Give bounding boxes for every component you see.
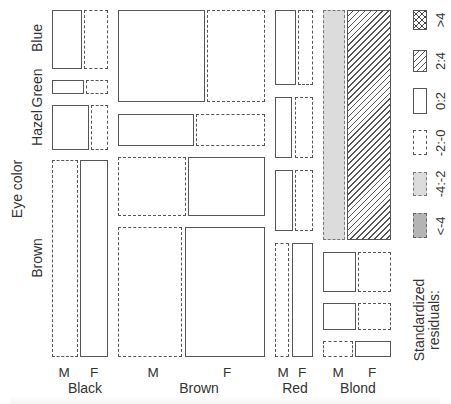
mosaic-tile-brown-brown-f — [185, 227, 265, 357]
mosaic-tile-red-hazel-f — [295, 170, 313, 231]
sex-label: F — [298, 365, 306, 380]
sex-label: M — [58, 365, 69, 380]
sex-label: F — [223, 365, 231, 380]
mosaic-tile-black-blue-f — [84, 10, 108, 69]
mosaic-tile-black-brown-f — [80, 160, 108, 357]
mosaic-tile-brown-green-f — [196, 114, 265, 146]
hair-label: Red — [282, 380, 308, 396]
mosaic-tile-brown-green-m — [118, 114, 194, 146]
y-level-label: Brown — [29, 238, 45, 278]
mosaic-tile-blond-brown-m — [323, 341, 353, 357]
mosaic-tile-blond-hazel-m — [323, 303, 356, 330]
legend-swatch — [413, 10, 427, 30]
mosaic-tile-black-hazel-f — [91, 105, 108, 150]
legend-label: -2:-0 — [433, 129, 448, 156]
sex-label: F — [368, 365, 376, 380]
legend-label: 0:2 — [433, 92, 448, 110]
legend-swatch — [413, 172, 427, 196]
mosaic-tile-blond-brown-f — [355, 341, 391, 357]
mosaic-tile-black-brown-m — [52, 160, 78, 357]
figure-caption-cutoff — [10, 396, 440, 404]
legend-label: >4 — [433, 13, 448, 28]
mosaic-tile-black-green-m — [52, 80, 84, 94]
mosaic-tile-red-green-f — [295, 97, 313, 158]
mosaic-tile-black-blue-m — [52, 10, 82, 69]
hair-label: Blond — [340, 380, 376, 396]
mosaic-tile-blond-blue-m — [323, 10, 345, 240]
mosaic-tile-black-hazel-m — [52, 105, 89, 150]
mosaic-tile-red-brown-f — [292, 243, 313, 357]
mosaic-tile-blond-green-m — [323, 252, 356, 292]
mosaic-tile-brown-blue-f — [207, 10, 265, 102]
sex-label: F — [90, 365, 98, 380]
y-level-label: Hazel — [29, 110, 45, 146]
sex-label: M — [332, 365, 343, 380]
hair-label: Brown — [179, 380, 219, 396]
mosaic-tile-blond-blue-f — [347, 10, 391, 240]
mosaic-tile-black-green-f — [86, 80, 108, 94]
mosaic-tile-red-brown-m — [275, 243, 289, 357]
mosaic-tile-red-blue-f — [298, 10, 313, 85]
mosaic-tile-red-hazel-m — [275, 170, 293, 231]
mosaic-tile-red-green-m — [275, 97, 292, 158]
mosaic-tile-brown-blue-m — [118, 10, 205, 102]
legend-label: <-4 — [433, 216, 448, 235]
legend-swatch — [413, 213, 427, 238]
legend-swatch — [413, 50, 427, 72]
hair-label: Black — [68, 380, 102, 396]
sex-label: M — [277, 365, 288, 380]
mosaic-tile-blond-hazel-f — [358, 303, 391, 330]
y-axis-title: Eye color — [9, 160, 25, 218]
legend-swatch — [413, 88, 427, 114]
mosaic-tile-brown-brown-m — [118, 227, 182, 357]
legend-swatch — [413, 130, 427, 155]
y-level-label: Green — [29, 69, 45, 108]
mosaic-tile-brown-hazel-f — [188, 157, 265, 216]
legend-label: 2:4 — [433, 52, 448, 70]
legend-label: -4:-2 — [433, 171, 448, 198]
y-level-label: Blue — [29, 24, 45, 52]
legend-title: Standardized residuals: — [412, 255, 442, 385]
mosaic-tile-blond-green-f — [358, 252, 391, 292]
mosaic-tile-brown-hazel-m — [118, 157, 186, 216]
sex-label: M — [147, 365, 158, 380]
mosaic-tile-red-blue-m — [275, 10, 296, 85]
